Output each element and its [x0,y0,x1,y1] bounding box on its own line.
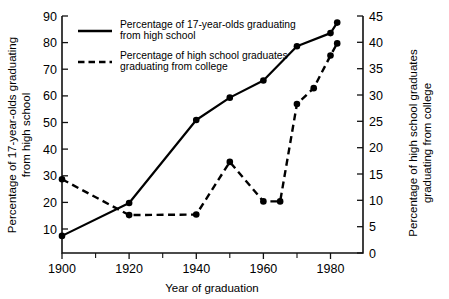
data-point [277,198,284,205]
y-axis-left-tick-labels: 90 80 70 60 50 40 30 20 10 [43,10,57,237]
y-right-tick-label: 35 [369,62,383,76]
y-left-tick-label: 70 [43,63,57,77]
y-left-tick-label: 30 [43,169,57,183]
y-right-tick-label: 30 [369,89,383,103]
x-tick-label: 1960 [249,262,277,276]
data-point [227,94,234,101]
y-left-tick-label: 40 [43,143,57,157]
data-point [126,212,133,219]
data-point [294,43,301,50]
y-right-tick-label: 40 [369,36,383,50]
legend-entry-1-line2: from high school [120,30,196,41]
chart-figure: 90 80 70 60 50 40 30 20 10 45 40 [0,0,449,299]
data-point [260,77,267,84]
x-axis-title: Year of graduation [165,282,259,294]
data-point [193,211,200,218]
y-right-tick-label: 10 [369,194,383,208]
data-point [310,85,317,92]
line-chart-svg: 90 80 70 60 50 40 30 20 10 45 40 [0,0,449,299]
data-point [294,101,301,108]
data-point [327,30,334,37]
data-point [193,117,200,124]
data-point [334,19,341,26]
legend-entry-2-line2: graduating from college [120,61,228,72]
x-tick-label: 1900 [48,262,76,276]
y-right-tick-label: 45 [369,10,383,24]
y-right-tick-label: 15 [369,168,383,182]
y-axis-right-title-line2: graduating from college [421,83,433,203]
y-axis-left-title-line2: from high school [20,93,32,177]
data-point [327,52,334,59]
y-right-tick-label: 25 [369,115,383,129]
data-point [260,198,267,205]
y-left-tick-label: 20 [43,196,57,210]
data-point [126,200,133,207]
y-left-tick-label: 90 [43,10,57,24]
legend-entry-2-line1: Percentage of high school graduates [120,50,288,61]
y-left-tick-label: 80 [43,36,57,50]
data-point [227,159,234,166]
y-axis-right-title-line1: Percentage of high school graduates [407,49,419,237]
x-tick-label: 1980 [317,262,345,276]
y-right-tick-label: 20 [369,141,383,155]
y-left-tick-label: 10 [43,223,57,237]
data-point [59,233,66,240]
y-left-tick-label: 50 [43,116,57,130]
legend-entry-1-line1: Percentage of 17-year-olds graduating [120,19,296,30]
x-tick-label: 1920 [115,262,143,276]
y-right-tick-label: 0 [369,247,376,261]
x-tick-label: 1940 [182,262,210,276]
y-right-tick-label: 5 [369,220,376,234]
data-point [334,40,341,47]
y-left-tick-label: 60 [43,89,57,103]
y-axis-left-title-line1: Percentage of 17-year-olds graduating [6,37,18,233]
data-point [59,176,66,183]
